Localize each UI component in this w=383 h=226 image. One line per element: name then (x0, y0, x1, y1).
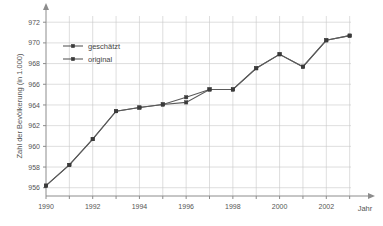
x-axis-arrow-icon (368, 193, 375, 199)
y-tick-label: 964 (28, 102, 40, 109)
data-point-marker (138, 106, 141, 109)
x-tick-label: 1996 (178, 203, 194, 210)
x-tick-label: 1994 (132, 203, 148, 210)
chart-canvas: 1990199219941996199820002002 95695896096… (0, 0, 383, 226)
y-tick-label: 956 (28, 184, 40, 191)
data-point-marker (231, 88, 234, 91)
data-point-marker (68, 163, 71, 166)
legend-label: geschätzt (88, 42, 121, 51)
data-point-marker (44, 184, 47, 187)
x-tick-label: 2002 (319, 203, 335, 210)
y-axis-arrow-icon (43, 3, 49, 10)
x-tick-label: 1992 (85, 203, 101, 210)
data-point-marker (161, 103, 164, 106)
data-point-marker (255, 67, 258, 70)
x-axis-title: Jahr (358, 204, 373, 213)
x-axis-tick-labels: 1990199219941996199820002002 (38, 203, 334, 210)
y-tick-label: 972 (28, 19, 40, 26)
data-point-marker (114, 109, 117, 112)
data-point-marker (278, 53, 281, 56)
data-point-marker (348, 34, 351, 37)
data-point-marker (184, 96, 187, 99)
population-line-chart: 1990199219941996199820002002 95695896096… (0, 0, 383, 226)
y-axis-tick-labels: 956958960962964966968970972 (28, 19, 40, 192)
legend-label: original (88, 55, 113, 64)
y-tick-label: 968 (28, 60, 40, 67)
y-tick-label: 958 (28, 164, 40, 171)
data-point-marker (325, 39, 328, 42)
y-tick-label: 962 (28, 122, 40, 129)
y-tick-label: 960 (28, 143, 40, 150)
y-tick-label: 970 (28, 39, 40, 46)
x-tick-label: 1990 (38, 203, 54, 210)
legend-marker-icon (71, 44, 74, 47)
y-tick-label: 966 (28, 81, 40, 88)
data-point-marker (208, 88, 211, 91)
data-point-marker (91, 137, 94, 140)
data-point-marker (184, 101, 187, 104)
legend-marker-icon (71, 57, 74, 60)
x-tick-label: 1998 (225, 203, 241, 210)
x-tick-label: 2000 (272, 203, 288, 210)
data-point-marker (301, 65, 304, 68)
chart-legend: geschätztoriginal (63, 42, 121, 64)
y-axis-title: Zahl der Bevölkerung (in 1.000) (15, 53, 24, 159)
